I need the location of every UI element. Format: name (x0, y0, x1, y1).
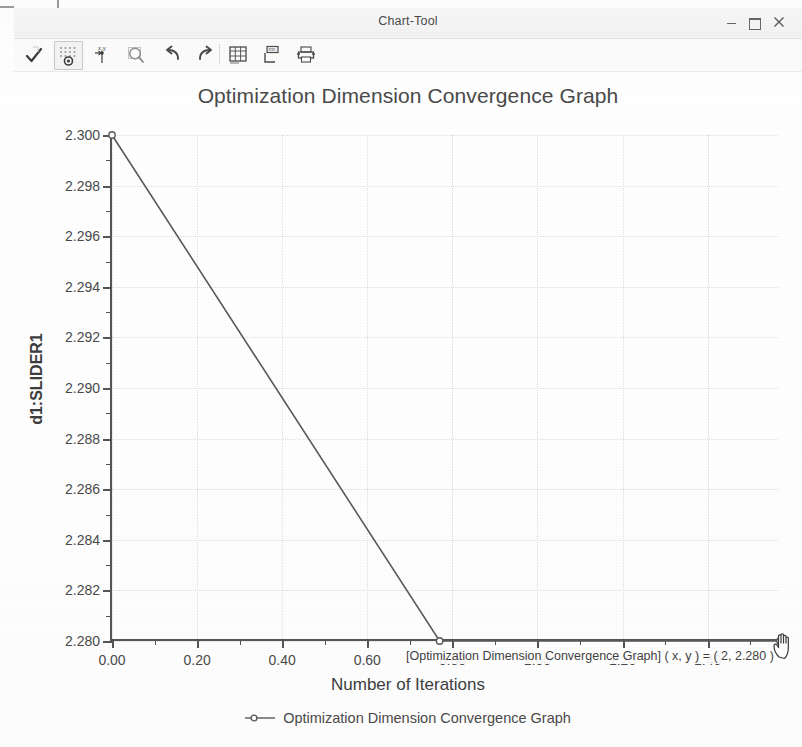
chart-canvas: Optimization Dimension Convergence Graph… (14, 70, 802, 747)
data-series-line (112, 135, 780, 641)
print-icon (295, 44, 317, 66)
title-bar: Chart-Tool (14, 8, 802, 39)
print-icon-button[interactable] (292, 41, 319, 68)
undo-icon-button[interactable] (158, 41, 185, 68)
y-axis-tick-label: 2.294 (65, 279, 100, 295)
toolbar-separator (219, 44, 220, 64)
y-axis-tick (103, 186, 112, 188)
scan-artifact-horizontal (0, 6, 14, 8)
y-axis-tick-label: 2.296 (65, 228, 100, 244)
y-axis-tick (103, 641, 112, 643)
maximize-button[interactable] (746, 14, 764, 32)
undo-icon (161, 44, 183, 66)
toolbar: x,y (14, 39, 802, 72)
y-axis-tick-label: 2.292 (65, 329, 100, 345)
coordinate-readout-tooltip: [Optimization Dimension Convergence Grap… (404, 648, 776, 664)
minimize-icon (727, 23, 736, 25)
window-title: Chart-Tool (14, 14, 802, 28)
data-point-marker[interactable] (109, 132, 115, 138)
legend: Optimization Dimension Convergence Graph (14, 710, 802, 726)
y-axis-tick-label: 2.298 (65, 178, 100, 194)
close-button[interactable] (770, 14, 788, 32)
text-label-icon-button[interactable]: mn (258, 41, 285, 68)
data-point-marker[interactable] (436, 638, 442, 644)
x-axis-tick-label: 0.00 (98, 652, 125, 668)
redo-icon (195, 44, 217, 66)
x-axis-tick-label: 0.40 (269, 652, 296, 668)
accept-check-icon-button[interactable] (20, 41, 47, 68)
hand-cursor-pointer (771, 630, 795, 660)
legend-marker-icon (245, 712, 275, 724)
magnifier-zoom-icon-button[interactable] (122, 41, 149, 68)
y-axis-tick-label: 2.288 (65, 431, 100, 447)
y-axis-label: d1:SLIDER1 (28, 309, 46, 449)
xy-crosshair-icon-button[interactable]: x,y (88, 41, 115, 68)
maximize-icon (749, 18, 761, 30)
close-icon (773, 16, 785, 28)
legend-label: Optimization Dimension Convergence Graph (283, 710, 571, 726)
y-axis-tick (103, 590, 112, 592)
x-axis-label: Number of Iterations (14, 675, 802, 695)
chart-tool-window: Chart-Tool (14, 8, 802, 747)
y-axis-tick (103, 489, 112, 491)
y-axis-tick (103, 439, 112, 441)
y-axis-tick (103, 337, 112, 339)
y-axis-tick (103, 540, 112, 542)
data-points-grid-icon (58, 45, 79, 66)
chart-title: Optimization Dimension Convergence Graph (14, 84, 802, 108)
svg-text:x,y: x,y (98, 45, 106, 51)
x-axis-tick-label: 0.20 (183, 652, 210, 668)
table-view-icon-button[interactable] (224, 41, 251, 68)
y-axis-tick-label: 2.282 (65, 582, 100, 598)
redo-icon-button[interactable] (192, 41, 219, 68)
y-axis-tick-label: 2.286 (65, 481, 100, 497)
y-axis-tick (103, 287, 112, 289)
y-axis-tick-label: 2.284 (65, 532, 100, 548)
svg-text:mn: mn (268, 46, 275, 52)
minimize-button[interactable] (722, 14, 740, 32)
plot-area[interactable]: 2.2802.2822.2842.2862.2882.2902.2922.294… (110, 135, 778, 641)
data-points-grid-icon-button[interactable] (54, 41, 83, 70)
x-axis-tick-label: 0.60 (354, 652, 381, 668)
table-view-icon (227, 44, 249, 66)
magnifier-zoom-icon (125, 44, 147, 66)
y-axis-tick-label: 2.280 (65, 633, 100, 649)
y-axis-tick-label: 2.300 (65, 127, 100, 143)
text-label-icon: mn (261, 44, 283, 66)
y-axis-tick (103, 236, 112, 238)
y-axis-tick-label: 2.290 (65, 380, 100, 396)
accept-check-icon (24, 45, 44, 65)
xy-crosshair-icon: x,y (91, 44, 113, 66)
y-axis-tick (103, 388, 112, 390)
